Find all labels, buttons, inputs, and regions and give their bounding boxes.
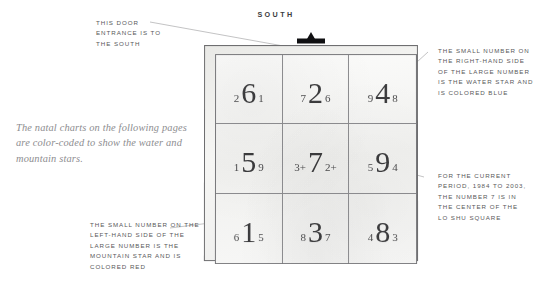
period-star-value: 7 — [306, 147, 324, 177]
annotation-mountain-star: THE SMALL NUMBER ON THE LEFT-HAND SIDE O… — [90, 220, 200, 272]
lo-shu-outer-frame: 2 6 1 7 2 6 9 4 8 — [204, 45, 418, 261]
lo-shu-cell-middle-right[interactable]: 5 9 4 — [349, 124, 416, 193]
annotation-line: THE SOUTH — [96, 39, 161, 49]
mountain-star-value: 7 — [300, 93, 305, 104]
lo-shu-cell-bottom-right[interactable]: 4 8 3 — [349, 194, 416, 263]
annotation-line: LO SHU SQUARE — [438, 213, 526, 223]
water-star-value: 8 — [392, 93, 398, 104]
annotation-line: MOUNTAIN STAR AND IS — [90, 251, 200, 261]
annotation-line: LEFT-HAND SIDE OF THE — [90, 230, 200, 240]
water-star-value: 6 — [325, 93, 330, 104]
lo-shu-inner-frame: 2 6 1 7 2 6 9 4 8 — [215, 54, 417, 264]
mountain-star-value: 9 — [368, 93, 374, 104]
water-star-value: 7 — [325, 232, 331, 243]
lo-shu-cell-top-center[interactable]: 7 2 6 — [283, 55, 350, 124]
annotation-line: OF THE LARGE NUMBER — [438, 67, 533, 77]
annotation-current-period: FOR THE CURRENT PERIOD, 1984 TO 2003, TH… — [438, 171, 526, 223]
period-star-value: 8 — [374, 217, 392, 247]
lo-shu-cell-top-right[interactable]: 9 4 8 — [349, 55, 416, 124]
lo-shu-square: 2 6 1 7 2 6 9 4 8 — [200, 40, 424, 268]
lo-shu-cell-middle-left[interactable]: 1 5 9 — [216, 124, 283, 193]
mountain-star-value: 2 — [234, 93, 240, 104]
annotation-line: ENTRANCE IS TO — [96, 28, 161, 38]
water-star-value: 5 — [258, 232, 264, 243]
door-entrance-marker — [294, 32, 328, 46]
annotation-line: FOR THE CURRENT — [438, 171, 526, 181]
annotation-line: LARGE NUMBER IS THE — [90, 241, 200, 251]
annotation-line: THE SMALL NUMBER ON THE — [90, 220, 200, 230]
mountain-star-value: 6 — [234, 232, 240, 243]
annotation-line: THIS DOOR — [96, 18, 161, 28]
period-star-value: 3 — [306, 217, 324, 247]
period-star-value: 2 — [306, 78, 324, 108]
annotation-line: THE CENTER OF THE — [438, 202, 526, 212]
period-star-value: 5 — [240, 147, 258, 177]
period-star-value: 6 — [240, 78, 258, 108]
lo-shu-cell-middle-center[interactable]: 3+ 7 2+ — [283, 124, 350, 193]
annotation-line: THE RIGHT-HAND SIDE — [438, 56, 533, 66]
lo-shu-grid: 2 6 1 7 2 6 9 4 8 — [216, 55, 416, 263]
water-star-value: 1 — [258, 93, 264, 104]
mountain-star-value: 5 — [368, 162, 374, 173]
mountain-star-value: 1 — [234, 162, 240, 173]
lo-shu-cell-bottom-left[interactable]: 6 1 5 — [216, 194, 283, 263]
south-direction-label: SOUTH — [0, 10, 552, 19]
period-star-value: 1 — [240, 217, 258, 247]
water-star-value: 3 — [392, 232, 398, 243]
annotation-line: THE NUMBER 7 IS IN — [438, 192, 526, 202]
water-star-value: 2+ — [325, 162, 337, 173]
mountain-star-value: 4 — [368, 232, 374, 243]
annotation-line: THE SMALL NUMBER ON — [438, 46, 533, 56]
annotation-door-entrance: THIS DOOR ENTRANCE IS TO THE SOUTH — [96, 18, 161, 49]
water-star-value: 4 — [392, 162, 398, 173]
annotation-line: IS COLORED BLUE — [438, 88, 533, 98]
annotation-line: PERIOD, 1984 TO 2003, — [438, 181, 526, 191]
period-star-value: 4 — [374, 78, 392, 108]
lo-shu-cell-bottom-center[interactable]: 8 3 7 — [283, 194, 350, 263]
annotation-line: COLORED RED — [90, 262, 200, 272]
page-caption: The natal charts on the following pages … — [16, 120, 188, 166]
annotation-water-star: THE SMALL NUMBER ON THE RIGHT-HAND SIDE … — [438, 46, 533, 98]
period-star-value: 9 — [374, 147, 392, 177]
annotation-line: IS THE WATER STAR AND — [438, 77, 533, 87]
mountain-star-value: 8 — [300, 232, 306, 243]
lo-shu-cell-top-left[interactable]: 2 6 1 — [216, 55, 283, 124]
water-star-value: 9 — [258, 162, 264, 173]
mountain-star-value: 3+ — [294, 162, 306, 173]
